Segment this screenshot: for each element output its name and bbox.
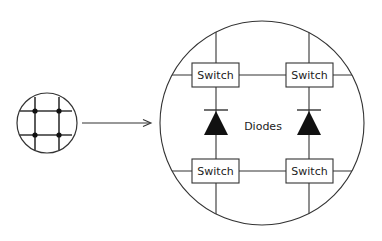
switch-label-bottom-right: Switch bbox=[291, 165, 327, 178]
switch-label-top-left: Switch bbox=[197, 69, 233, 82]
diodes-label: Diodes bbox=[244, 120, 282, 133]
small-circle-outline bbox=[17, 93, 77, 153]
diode-icon bbox=[297, 111, 321, 135]
switch-label-top-right: Switch bbox=[291, 69, 327, 82]
junction-dot bbox=[32, 132, 37, 137]
switch-label-bottom-left: Switch bbox=[197, 165, 233, 178]
small-crossbar bbox=[17, 93, 77, 153]
diode-left bbox=[204, 110, 228, 135]
diode-right bbox=[297, 110, 321, 135]
junction-dot bbox=[56, 108, 61, 113]
junction-dot bbox=[32, 108, 37, 113]
junction-dot bbox=[56, 132, 61, 137]
diode-icon bbox=[204, 111, 228, 135]
crossbar-diagram: Switch Switch Switch Switch Diodes bbox=[0, 0, 382, 241]
zoom-arrow bbox=[82, 120, 151, 127]
